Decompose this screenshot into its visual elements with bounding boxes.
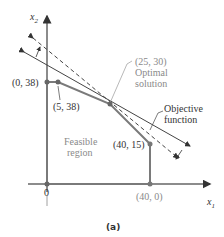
x-axis-label: x1 <box>207 196 215 212</box>
point-label-0-38: (0, 38) <box>12 77 39 88</box>
direction-arrow-upper <box>36 47 40 57</box>
vertex-25-30 <box>108 102 113 107</box>
vertex-0-38 <box>45 80 50 85</box>
origin-label: 0 <box>44 187 49 198</box>
figure-caption: (a) <box>106 222 120 233</box>
optimal-label-line2: solution <box>135 78 167 89</box>
objective-label-line1: Objective <box>164 103 203 114</box>
feasible-label-line1: Feasible <box>64 136 97 147</box>
point-label-40-0: (40, 0) <box>136 191 163 202</box>
vertex-5-38 <box>56 80 61 85</box>
vertex-40-0 <box>148 182 153 187</box>
objective-label-line2: function <box>164 114 197 125</box>
point-label-40-15: (40, 15) <box>113 139 145 150</box>
optimal-leader-line <box>110 61 132 103</box>
y-axis-label: x2 <box>30 11 38 27</box>
feasible-region-boundary <box>47 82 150 184</box>
direction-arrow-lower <box>176 150 182 159</box>
point-label-5-38: (5, 38) <box>53 101 80 112</box>
optimal-label-line1: Optimal <box>135 67 168 78</box>
feasible-label-line2: region <box>67 147 93 158</box>
p5-38-leader-line <box>58 86 60 100</box>
point-label-25-30: (25, 30) <box>135 56 167 67</box>
vertex-0-0 <box>45 182 50 187</box>
vertex-40-15 <box>148 142 153 147</box>
